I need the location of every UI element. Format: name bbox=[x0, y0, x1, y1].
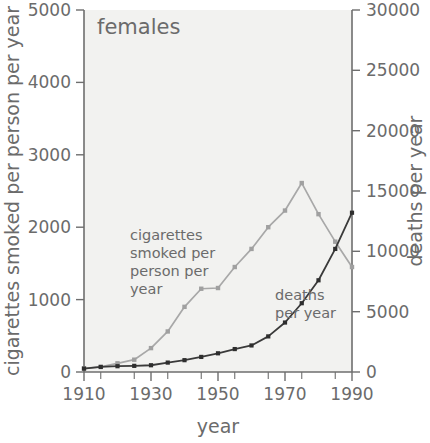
deaths-point-1935 bbox=[166, 360, 170, 364]
deaths-label-line-1: per year bbox=[275, 305, 336, 321]
y-left-ticklabel-2000: 2000 bbox=[28, 217, 71, 237]
deaths-point-1985 bbox=[333, 247, 337, 251]
deaths-point-1955 bbox=[233, 347, 237, 351]
deaths-point-1950 bbox=[216, 351, 220, 355]
cigarettes-label-line-1: smoked per bbox=[130, 245, 215, 261]
deaths-point-1910 bbox=[82, 367, 86, 371]
y-right-ticklabel-25000: 25000 bbox=[366, 60, 420, 80]
y-right-ticklabel-30000: 30000 bbox=[366, 0, 420, 20]
page-title: females bbox=[97, 15, 180, 39]
cigarettes-point-1985 bbox=[333, 239, 337, 243]
cigarettes-point-1965 bbox=[266, 225, 270, 229]
cigarettes-label-line-0: cigarettes bbox=[130, 227, 203, 243]
x-axis-major-ticks bbox=[84, 372, 352, 381]
cigarettes-point-1980 bbox=[316, 212, 320, 216]
deaths-label-line-0: deaths bbox=[275, 287, 324, 303]
y-right-ticklabel-5000: 5000 bbox=[366, 302, 409, 322]
cigarettes-point-1955 bbox=[233, 265, 237, 269]
y-right-axis-title: deaths per year bbox=[404, 115, 426, 266]
cigarettes-point-1970 bbox=[283, 208, 287, 212]
deaths-point-1915 bbox=[99, 365, 103, 369]
cigarettes-point-1925 bbox=[132, 357, 136, 361]
y-left-ticklabel-0: 0 bbox=[60, 362, 71, 382]
line-chart: females 0 1000 2000 3000 4000 5000 cigar… bbox=[0, 0, 430, 443]
y-right-ticklabel-0: 0 bbox=[366, 362, 377, 382]
cigarettes-point-1960 bbox=[249, 247, 253, 251]
cigarettes-point-1935 bbox=[166, 329, 170, 333]
deaths-point-1990 bbox=[350, 211, 354, 215]
cigarettes-point-1930 bbox=[149, 346, 153, 350]
cigarettes-label-line-2: person per bbox=[130, 263, 208, 279]
x-ticklabel-1990: 1990 bbox=[330, 384, 373, 404]
cigarettes-label-line-3: year bbox=[130, 281, 162, 297]
deaths-point-1930 bbox=[149, 363, 153, 367]
deaths-point-1970 bbox=[283, 320, 287, 324]
chart-figure: females 0 1000 2000 3000 4000 5000 cigar… bbox=[0, 0, 430, 443]
cigarettes-point-1950 bbox=[216, 286, 220, 290]
y-left-ticklabel-1000: 1000 bbox=[28, 290, 71, 310]
deaths-point-1965 bbox=[266, 334, 270, 338]
x-axis-title: year bbox=[197, 415, 240, 437]
cigarettes-point-1940 bbox=[182, 305, 186, 309]
x-axis-tick-labels: 1910 1930 1950 1970 1990 bbox=[62, 384, 373, 404]
deaths-point-1940 bbox=[182, 358, 186, 362]
deaths-point-1960 bbox=[249, 343, 253, 347]
x-ticklabel-1930: 1930 bbox=[129, 384, 172, 404]
cigarettes-point-1975 bbox=[300, 181, 304, 185]
cigarettes-point-1990 bbox=[350, 265, 354, 269]
y-left-axis-title: cigarettes smoked per person per year bbox=[1, 6, 23, 376]
y-left-ticklabel-3000: 3000 bbox=[28, 145, 71, 165]
y-left-tick-labels: 0 1000 2000 3000 4000 5000 bbox=[28, 0, 71, 382]
deaths-point-1920 bbox=[115, 364, 119, 368]
y-left-ticklabel-5000: 5000 bbox=[28, 0, 71, 20]
x-ticklabel-1910: 1910 bbox=[62, 384, 105, 404]
deaths-point-1980 bbox=[316, 278, 320, 282]
x-ticklabel-1950: 1950 bbox=[196, 384, 239, 404]
deaths-point-1945 bbox=[199, 355, 203, 359]
y-left-ticklabel-4000: 4000 bbox=[28, 72, 71, 92]
cigarettes-point-1945 bbox=[199, 287, 203, 291]
y-right-ticks bbox=[352, 10, 360, 372]
y-left-ticks bbox=[76, 10, 84, 372]
deaths-point-1925 bbox=[132, 364, 136, 368]
x-ticklabel-1970: 1970 bbox=[263, 384, 306, 404]
